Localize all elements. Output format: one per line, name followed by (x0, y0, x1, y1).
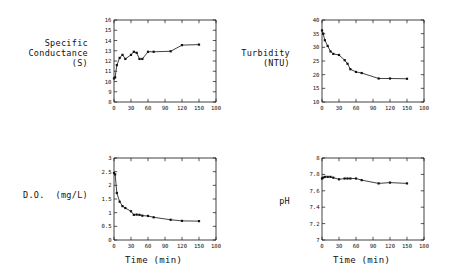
x-tick-label: 120 (385, 105, 395, 111)
y-tick-label: 15 (313, 85, 320, 91)
y-tick-label: 7.4 (309, 204, 320, 210)
data-point-marker (153, 216, 155, 218)
x-tick-label: 30 (128, 243, 135, 249)
x-tick-label: 0 (320, 243, 323, 249)
data-point-marker (136, 213, 138, 215)
x-tick-label: 90 (162, 105, 169, 111)
data-point-marker (361, 72, 363, 74)
y-tick-label: 40 (313, 17, 320, 23)
data-point-marker (355, 177, 357, 179)
x-tick-label: 60 (353, 243, 360, 249)
axis-label-time-bottom-right: Time (min) (333, 255, 390, 265)
data-point-marker (138, 214, 140, 216)
axis-label-dissolved-oxygen: D.O. (mg/L) (2, 190, 88, 200)
data-point-marker (322, 33, 324, 35)
series-line-ph (322, 177, 407, 184)
x-tick-label: 180 (211, 243, 221, 249)
y-tick-label: 7.6 (309, 188, 319, 194)
y-tick-label: 1 (108, 210, 111, 216)
y-tick-label: 9 (108, 89, 111, 95)
data-point-marker (324, 176, 326, 178)
y-tick-label: 2.5 (101, 169, 111, 175)
data-point-marker (355, 71, 357, 73)
data-point-marker (133, 214, 135, 216)
data-point-marker (141, 215, 143, 217)
data-point-marker (133, 51, 135, 53)
data-point-marker (116, 192, 118, 194)
x-tick-label: 150 (194, 243, 204, 249)
data-point-marker (114, 76, 116, 78)
data-point-marker (344, 59, 346, 61)
data-point-marker (344, 177, 346, 179)
data-point-marker (329, 50, 331, 52)
y-tick-label: 30 (313, 44, 320, 50)
plot-specific-conductance: 03060901201501808910111213141516 (88, 14, 220, 118)
plot-ph: 030609012015018077.27.47.67.88 (296, 152, 428, 256)
y-tick-label: 13 (105, 48, 112, 54)
y-tick-label: 16 (105, 17, 112, 23)
figure-canvas: SpecificConductance(S) 03060901201501808… (0, 0, 449, 278)
x-tick-label: 60 (145, 243, 152, 249)
x-tick-label: 90 (370, 243, 377, 249)
axis-label-turbidity: Turbidity(NTU) (228, 48, 290, 68)
chart-specific-conductance: 03060901201501808910111213141516 (88, 14, 220, 118)
y-tick-label: 7.8 (309, 171, 320, 177)
data-point-marker (121, 205, 123, 207)
data-point-marker (338, 54, 340, 56)
chart-ph: 030609012015018077.27.47.67.88 (296, 152, 428, 256)
series-line-dissolved-oxygen (114, 173, 199, 221)
data-point-marker (346, 63, 348, 65)
y-tick-label: 14 (105, 38, 112, 44)
data-point-marker (181, 220, 183, 222)
data-point-marker (324, 39, 326, 41)
x-tick-label: 0 (112, 105, 115, 111)
data-point-marker (116, 64, 118, 66)
y-tick-label: 10 (313, 99, 320, 105)
axis-label-time-bottom-left: Time (min) (125, 255, 182, 265)
x-tick-label: 0 (320, 105, 323, 111)
data-point-marker (332, 53, 334, 55)
data-point-marker (153, 51, 155, 53)
chart-turbidity: 030609012015018010152025303540 (296, 14, 428, 118)
axis-label-line: D.O. (mg/L) (2, 190, 88, 200)
data-point-marker (378, 77, 380, 79)
x-tick-label: 0 (112, 243, 115, 249)
axis-label-line: (S) (4, 58, 88, 68)
data-point-marker (170, 219, 172, 221)
x-tick-label: 120 (177, 105, 187, 111)
data-point-marker (124, 58, 126, 60)
data-point-marker (130, 210, 132, 212)
series-line-specific-conductance (114, 45, 199, 79)
data-point-marker (147, 215, 149, 217)
data-point-marker (332, 177, 334, 179)
data-point-marker (181, 44, 183, 46)
data-point-marker (349, 68, 351, 70)
y-tick-label: 25 (313, 58, 320, 64)
axis-label-line: Turbidity (228, 48, 290, 58)
y-tick-label: 20 (313, 72, 320, 78)
data-point-marker (198, 220, 200, 222)
y-tick-label: 8 (316, 155, 320, 161)
axis-label-ph: pH (250, 196, 290, 206)
y-tick-label: 0.5 (101, 223, 111, 229)
x-tick-label: 180 (419, 243, 429, 249)
x-tick-label: 60 (145, 105, 152, 111)
y-tick-label: 2 (108, 182, 111, 188)
x-tick-label: 30 (336, 243, 343, 249)
y-tick-label: 10 (105, 79, 112, 85)
series-line-turbidity (322, 30, 407, 78)
x-tick-label: 90 (162, 243, 169, 249)
x-tick-label: 120 (385, 243, 395, 249)
y-tick-label: 15 (105, 27, 112, 33)
data-point-marker (141, 58, 143, 60)
y-tick-label: 35 (313, 31, 320, 37)
x-tick-label: 150 (402, 105, 412, 111)
x-tick-label: 150 (402, 243, 412, 249)
axis-label-line: pH (250, 196, 290, 206)
data-point-marker (114, 173, 116, 175)
data-point-marker (136, 52, 138, 54)
data-point-marker (378, 182, 380, 184)
x-tick-label: 90 (370, 105, 377, 111)
x-tick-label: 120 (177, 243, 187, 249)
y-tick-label: 3 (108, 155, 111, 161)
